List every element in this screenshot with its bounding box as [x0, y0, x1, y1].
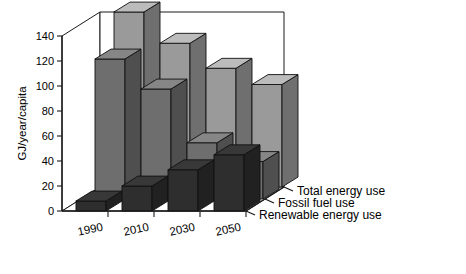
bar-front-face [95, 59, 125, 199]
x-tick-label: 1990 [76, 221, 104, 238]
x-tick-label: 2050 [214, 221, 242, 238]
y-axis-title: GJ/year/capita [16, 86, 28, 161]
bar-front-face [214, 155, 244, 211]
y-tick-label: 80 [42, 105, 54, 117]
y-tick-label: 0 [48, 205, 54, 217]
depth-tick [284, 187, 293, 191]
bar-2-3[interactable] [214, 145, 260, 211]
y-tick-label: 40 [42, 155, 54, 167]
x-axis: 1990201020302050 [62, 211, 246, 238]
bar-front-face [122, 186, 152, 211]
bar-front-face [76, 201, 106, 211]
bar-chart-3d: 020406080100120140GJ/year/capita19902010… [0, 0, 466, 274]
chart-container: 020406080100120140GJ/year/capita19902010… [0, 0, 466, 274]
y-tick-label: 120 [36, 55, 54, 67]
bar-side-face [282, 75, 298, 187]
bar-2-1[interactable] [122, 176, 168, 211]
depth-tick [246, 211, 255, 215]
series-label: Renewable energy use [259, 208, 382, 222]
bar-front-face [168, 170, 198, 211]
y-tick-label: 60 [42, 130, 54, 142]
y-tick-label: 20 [42, 180, 54, 192]
y-tick-label: 140 [36, 30, 54, 42]
bar-2-2[interactable] [168, 160, 214, 211]
back-wall-left [62, 12, 100, 211]
y-tick-label: 100 [36, 80, 54, 92]
x-tick-label: 2010 [122, 221, 150, 238]
y-axis: 020406080100120140 [36, 30, 62, 217]
bar-1-0[interactable] [95, 49, 141, 199]
depth-tick [265, 199, 274, 203]
x-tick-label: 2030 [168, 221, 196, 238]
bar-side-face [244, 145, 260, 211]
